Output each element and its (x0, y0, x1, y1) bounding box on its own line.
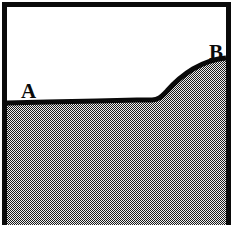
point-label-b: B (209, 42, 223, 63)
figure-panel: A B (0, 0, 238, 225)
figure-border: A B (2, 2, 231, 225)
figure-canvas: A B (7, 7, 226, 225)
interface-profile-graphic (7, 7, 226, 225)
point-label-a: A (21, 81, 36, 102)
